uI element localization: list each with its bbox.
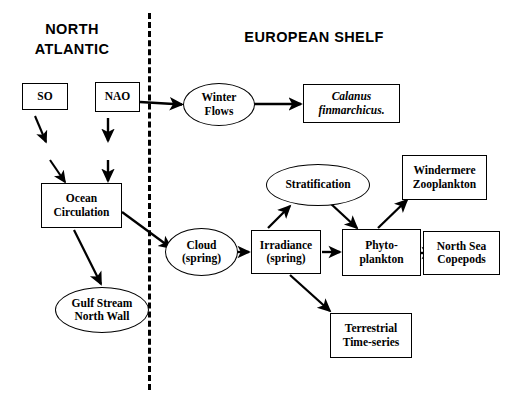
header-north-atlantic: NORTH ATLANTIC xyxy=(8,20,136,59)
node-so[interactable]: SO xyxy=(22,83,68,110)
region-divider xyxy=(148,13,151,390)
node-nao[interactable]: NAO xyxy=(95,82,140,112)
edge-irradiance-to-stratification xyxy=(268,206,290,228)
edge-irradiance-to-terrestrial xyxy=(290,275,330,311)
header-european-shelf: EUROPEAN SHELF xyxy=(228,28,400,48)
edge-phytoplankton-to-windermere xyxy=(378,200,407,228)
node-gulf-stream-north-wall[interactable]: Gulf Stream North Wall xyxy=(55,287,149,333)
diagram-canvas: NORTH ATLANTIC EUROPEAN SHELF SO NAO Oce… xyxy=(0,0,509,406)
node-stratification[interactable]: Stratification xyxy=(266,164,370,206)
edge-stratification-to-phytoplankton xyxy=(330,203,357,228)
node-winter-flows[interactable]: Winter Flows xyxy=(183,83,255,126)
node-calanus-finmarchicus[interactable]: Calanus finmarchicus. xyxy=(303,84,400,123)
node-phytoplankton[interactable]: Phyto- plankton xyxy=(342,229,421,276)
node-terrestrial-time-series[interactable]: Terrestrial Time-series xyxy=(330,313,412,358)
edge-ocean-circulation-to-cloud xyxy=(122,212,171,248)
node-irradiance-spring[interactable]: Irradiance (spring) xyxy=(251,230,321,274)
node-cloud-spring[interactable]: Cloud (spring) xyxy=(165,228,238,276)
node-ocean-circulation[interactable]: Ocean Circulation xyxy=(41,183,122,228)
node-windermere-zooplankton[interactable]: Windermere Zooplankton xyxy=(402,155,487,200)
edge-ocean-circulation-to-gulf-stream xyxy=(74,230,101,284)
edge-so-to-ocean-circulation xyxy=(35,116,65,182)
edge-nao-to-winter-flows xyxy=(140,102,182,105)
node-north-sea-copepods[interactable]: North Sea Copepods xyxy=(423,231,500,275)
